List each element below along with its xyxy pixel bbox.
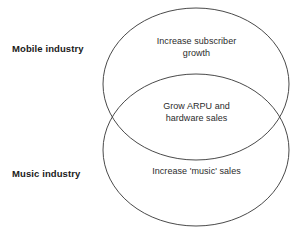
set-label-music-industry: Music industry (12, 169, 80, 179)
ellipse-music-industry[interactable] (103, 74, 289, 226)
venn-diagram-canvas: Mobile industry Music industry Increase … (0, 0, 297, 234)
set-label-mobile-industry: Mobile industry (12, 44, 84, 54)
ellipse-mobile-industry[interactable] (103, 8, 289, 160)
region-text-music-only: Increase 'music' sales (113, 165, 280, 177)
region-text-intersection: Grow ARPU and hardware sales (113, 100, 280, 125)
region-text-mobile-only: Increase subscriber growth (113, 35, 280, 60)
